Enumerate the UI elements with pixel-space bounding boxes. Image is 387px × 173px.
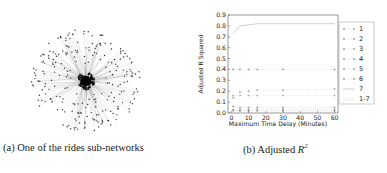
series-5 (232, 109, 335, 112)
y-tick-label: 0.8 (216, 22, 226, 29)
network-hub (81, 76, 91, 86)
caption-a-text: One of the rides sub-networks (17, 142, 144, 153)
y-tick-label: 0.2 (216, 87, 226, 94)
series-1 (232, 105, 335, 108)
series-4 (232, 95, 335, 97)
y-tick-label: 0.6 (216, 44, 226, 51)
legend-label: 2 (359, 35, 363, 43)
plot-frame (228, 15, 338, 113)
legend-label: 4 (359, 55, 363, 63)
y-tick-label: 0.7 (216, 33, 226, 40)
legend: 12345671-7 (339, 22, 374, 104)
series-3 (232, 68, 335, 70)
series-6 (232, 109, 335, 112)
legend-label: 6 (359, 75, 363, 83)
caption-b-text: Adjusted (257, 144, 298, 155)
caption-a: (a) One of the rides sub-networks (3, 142, 144, 153)
legend-label: 1-7 (359, 95, 370, 103)
x-axis-label: Maximum Time Delay (Minutes) (229, 120, 327, 128)
x-tick-label: 60 (331, 114, 339, 121)
series-7 (233, 24, 334, 34)
caption-a-prefix: (a) (3, 142, 15, 153)
series-2 (232, 88, 335, 99)
y-tick-label: 0.5 (216, 55, 226, 62)
caption-b-prefix: (b) (243, 144, 255, 155)
legend-label: 7 (359, 85, 363, 93)
y-tick-label: 0.0 (216, 109, 226, 116)
legend-label: 1 (359, 25, 363, 33)
caption-b: (b) Adjusted R2 (243, 142, 308, 155)
network-graph (0, 0, 193, 140)
caption-b-sup: 2 (304, 142, 308, 150)
legend-label: 5 (359, 65, 363, 73)
y-tick-label: 0.9 (216, 11, 226, 18)
line-chart: 0.00.10.20.30.40.50.60.70.80.90102030405… (193, 0, 387, 135)
y-tick-label: 0.1 (216, 98, 226, 105)
y-tick-label: 0.3 (216, 76, 226, 83)
legend-label: 3 (359, 45, 363, 53)
y-tick-label: 0.4 (216, 65, 226, 72)
y-axis-label: Adjusted R Squared (197, 34, 205, 93)
